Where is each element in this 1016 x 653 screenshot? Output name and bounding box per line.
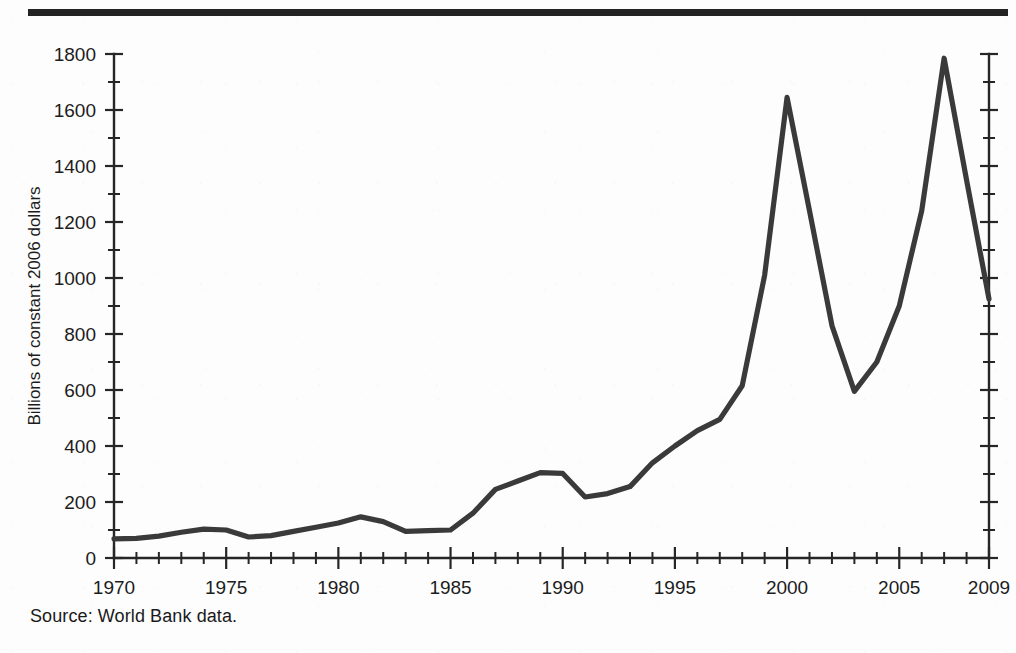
line-chart: 0200400600800100012001400160018001970197…	[0, 0, 1016, 600]
source-note: Source: World Bank data.	[30, 606, 237, 627]
x-tick-label: 2000	[766, 577, 808, 598]
y-tick-label: 1000	[54, 268, 96, 289]
data-series-line	[114, 58, 989, 539]
x-tick-label: 1985	[429, 577, 471, 598]
y-tick-label: 1800	[54, 44, 96, 65]
y-tick-label: 600	[64, 380, 96, 401]
y-tick-label: 800	[64, 324, 96, 345]
plot-area: 0200400600800100012001400160018001970197…	[0, 0, 1016, 600]
y-tick-label: 0	[85, 548, 96, 569]
y-axis-title: Billions of constant 2006 dollars	[25, 186, 44, 425]
figure-container: 0200400600800100012001400160018001970197…	[0, 0, 1016, 653]
y-tick-label: 1600	[54, 100, 96, 121]
x-tick-label: 2005	[878, 577, 920, 598]
y-tick-label: 1400	[54, 156, 96, 177]
x-tick-label: 1990	[542, 577, 584, 598]
y-tick-label: 1200	[54, 212, 96, 233]
x-tick-label: 1970	[93, 577, 135, 598]
x-tick-label: 1980	[317, 577, 359, 598]
x-tick-label: 2009	[968, 577, 1010, 598]
y-tick-label: 200	[64, 492, 96, 513]
label-layer: 0200400600800100012001400160018001970197…	[25, 44, 1010, 598]
axis-layer	[105, 54, 998, 569]
y-tick-label: 400	[64, 436, 96, 457]
x-tick-label: 1995	[654, 577, 696, 598]
x-tick-label: 1975	[205, 577, 247, 598]
series-layer	[114, 58, 989, 539]
